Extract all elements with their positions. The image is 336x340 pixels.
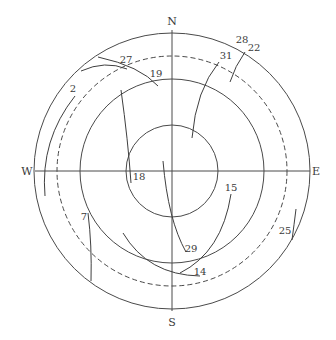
track-label-14: 14 [194, 266, 207, 277]
compass-west: W [21, 165, 33, 178]
track-label-2: 2 [70, 83, 76, 94]
track-7 [88, 213, 91, 281]
polar-diagram: N S W E 2 27 19 18 31 22 28 29 15 14 [0, 0, 336, 340]
track-label-22: 22 [248, 42, 261, 53]
track-29 [163, 161, 186, 252]
track-15 [180, 194, 231, 273]
track-label-31: 31 [220, 50, 233, 61]
compass-north: N [167, 15, 177, 28]
track-label-25: 25 [279, 225, 292, 236]
track-label-29: 29 [185, 243, 198, 254]
track-31 [192, 62, 219, 138]
compass-south: S [168, 316, 176, 329]
track-label-19: 19 [150, 68, 163, 79]
track-label-18: 18 [133, 171, 146, 182]
track-label-28: 28 [236, 34, 249, 45]
track-27 [81, 65, 127, 71]
track-label-7: 7 [81, 211, 87, 222]
compass-east: E [312, 165, 320, 178]
track-label-15: 15 [225, 182, 238, 193]
